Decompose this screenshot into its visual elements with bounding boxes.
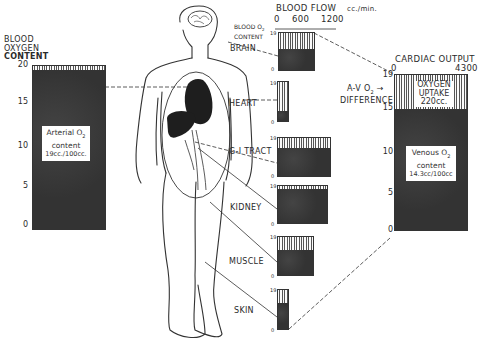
heart-tick-0: 0 <box>271 119 274 125</box>
skin-bar-venous <box>278 303 288 329</box>
left-tick-5: 5 <box>14 182 28 190</box>
venous-o2-label-box: Venous O2 content 14.3cc/100cc <box>406 146 456 181</box>
gi-bar-venous <box>278 148 330 176</box>
heart-bar-venous <box>278 111 288 121</box>
brain-bar-venous <box>279 49 314 70</box>
cardiac-output-max: 4300 <box>455 64 478 73</box>
venous-box-value: 14.3cc/100cc <box>406 170 456 179</box>
av-difference-label-2: DIFFERENCE <box>340 96 393 105</box>
flow-tick-0: 0 <box>274 15 280 24</box>
gi-tick-19: 19 <box>270 135 276 141</box>
subscript: 2 <box>82 133 85 139</box>
muscle-tick-19: 19 <box>270 234 276 240</box>
venous-box-line: content <box>406 161 456 170</box>
av-difference-label: A-V O2 → <box>347 84 384 97</box>
organ-label-gi-tract: G-I TRACT <box>229 147 272 156</box>
kidney-bar-venous <box>278 189 327 223</box>
skin-tick-19: 19 <box>270 287 276 293</box>
uptake-value: 220cc. <box>414 98 454 107</box>
arterial-box-value: 19cc./100cc. <box>42 150 90 159</box>
left-tick-20: 20 <box>14 61 28 69</box>
gi-tick-0: 0 <box>271 173 274 179</box>
blood-flow-unit: cc./min. <box>347 5 377 14</box>
muscle-tick-0: 0 <box>271 273 274 279</box>
liver-illustration <box>167 111 195 138</box>
organ-label-muscle: MUSCLE <box>229 257 264 266</box>
right-tick-15: 15 <box>379 104 393 112</box>
organ-label-heart: HEART <box>229 99 257 108</box>
left-tick-0: 0 <box>14 221 28 229</box>
right-tick-0: 0 <box>379 226 393 234</box>
kidney-tick-19: 19 <box>270 183 276 189</box>
brain-tick-19: 19 <box>270 30 276 36</box>
arterial-o2-label-box: Arterial O2 content 19cc./100cc. <box>42 126 90 161</box>
flow-tick-600: 600 <box>292 15 309 24</box>
organ-label-skin: SKIN <box>234 306 254 315</box>
venous-box-line: Venous O <box>412 148 447 157</box>
brain-bar-uptake <box>279 33 314 50</box>
muscle-bar <box>277 236 314 276</box>
flow-tick-1200: 1200 <box>321 15 344 24</box>
heart-bar-uptake <box>278 82 288 112</box>
left-axis-title: BLOOD OXYGEN CONTENT <box>4 36 49 62</box>
arterial-box-line: content <box>42 141 90 150</box>
subscript: 2 <box>447 153 450 159</box>
gi-tract-bar <box>277 137 331 177</box>
left-tick-15: 15 <box>14 98 28 106</box>
right-tick-10: 10 <box>379 148 393 156</box>
oxygen-uptake-label-box: OXYGEN UPTAKE 220cc. <box>414 81 454 107</box>
muscle-bar-uptake <box>278 237 313 251</box>
brain-tick-0: 0 <box>271 66 274 72</box>
brain-bar <box>278 32 315 71</box>
av-label-line: A-V O <box>347 84 371 93</box>
skin-bar <box>277 289 289 330</box>
kidney-bar <box>277 185 328 224</box>
blood-flow-title: BLOOD FLOW <box>276 4 336 13</box>
subscript: 2 <box>262 27 265 32</box>
o2-label-line: BLOOD O <box>234 23 262 30</box>
arrow-right-icon: → <box>374 84 384 93</box>
kidney-tick-0: 0 <box>271 221 274 227</box>
heart-bar <box>277 81 289 122</box>
heart-tick-19: 19 <box>270 80 276 86</box>
right-tick-5: 5 <box>379 189 393 197</box>
skin-tick-0: 0 <box>271 327 274 333</box>
left-tick-10: 10 <box>14 142 28 150</box>
blood-o2-content-label: BLOOD O2 CONTENT <box>234 23 265 40</box>
o2-label-line: CONTENT <box>234 33 265 40</box>
skin-bar-uptake <box>278 290 288 304</box>
arterial-box-line: Arterial O <box>46 128 82 137</box>
organ-label-brain: BRAIN <box>230 44 256 53</box>
organ-label-kidney: KIDNEY <box>230 203 262 212</box>
muscle-bar-venous <box>278 250 313 275</box>
right-tick-19: 19 <box>379 71 393 79</box>
